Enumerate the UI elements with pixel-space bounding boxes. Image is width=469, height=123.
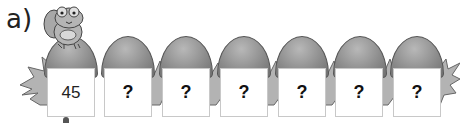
sequence-box-5[interactable]: ? bbox=[278, 68, 326, 117]
sequence-box-2[interactable]: ? bbox=[104, 68, 152, 117]
sequence-box-7[interactable]: ? bbox=[393, 68, 441, 117]
sequence-box-6[interactable]: ? bbox=[335, 68, 383, 117]
sequence-box-3[interactable]: ? bbox=[162, 68, 210, 117]
sequence-box-4[interactable]: ? bbox=[220, 68, 268, 117]
question-label: a) bbox=[6, 4, 32, 34]
sequence-box-1: 45 bbox=[47, 68, 95, 117]
cropped-glyph bbox=[63, 117, 69, 123]
frog-icon bbox=[40, 2, 90, 50]
